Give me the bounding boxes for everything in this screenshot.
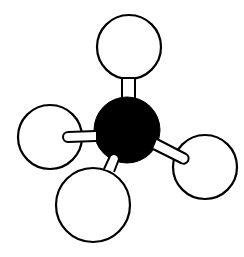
hydrogen-atom-top <box>97 15 161 79</box>
bond-left <box>63 131 96 142</box>
carbon-atom <box>94 97 160 163</box>
bond-bottom <box>104 154 119 172</box>
hydrogen-atom-right <box>173 135 237 199</box>
methane-molecule-diagram <box>0 0 244 257</box>
hydrogen-atom-bottom <box>56 168 130 242</box>
